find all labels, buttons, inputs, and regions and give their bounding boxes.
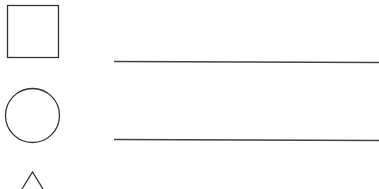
- circle-shape: [6, 89, 60, 143]
- answer-line-circle[interactable]: [114, 140, 379, 141]
- square-shape: [8, 6, 59, 58]
- shape-matching-diagram: [0, 0, 379, 189]
- answer-line-square[interactable]: [114, 62, 379, 63]
- triangle-shape: [22, 172, 43, 189]
